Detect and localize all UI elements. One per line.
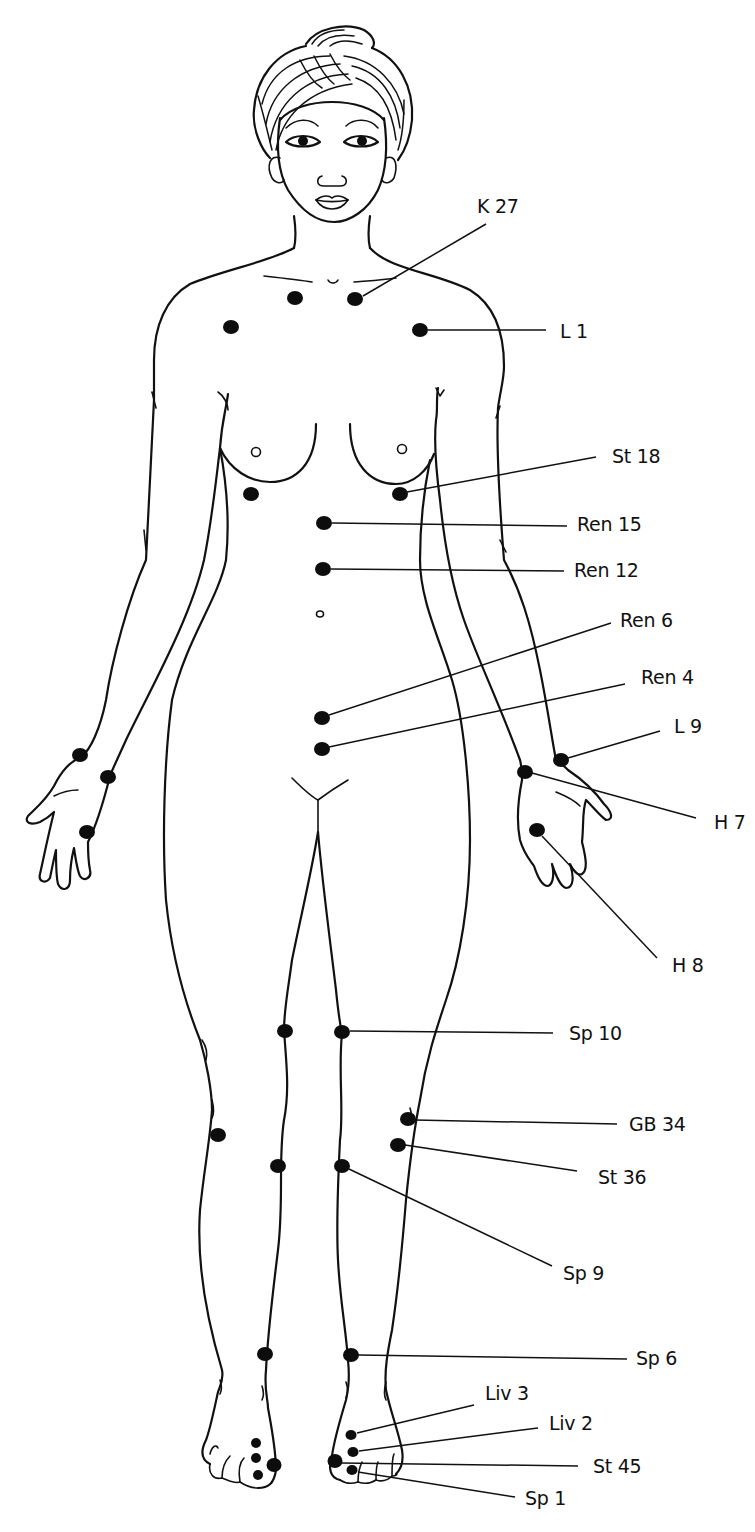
point-sp1-mirror bbox=[253, 1470, 263, 1480]
point-liv2-mirror bbox=[251, 1453, 261, 1463]
point-ren12 bbox=[315, 562, 331, 576]
right-hand-illustration bbox=[518, 760, 611, 888]
point-labels: K 27 L 1 St 18 Ren 15 Ren 12 Ren 6 Ren 4… bbox=[477, 195, 746, 1509]
leader-st36 bbox=[405, 1145, 577, 1171]
torso-illustration bbox=[82, 248, 556, 1100]
point-gb34-mirror bbox=[210, 1128, 226, 1142]
point-st18 bbox=[392, 487, 408, 501]
leader-sp9 bbox=[349, 1169, 552, 1266]
point-sp9-mirror bbox=[270, 1159, 286, 1173]
point-l9-mirror bbox=[72, 748, 88, 762]
label-st45: St 45 bbox=[593, 1455, 641, 1477]
label-h8: H 8 bbox=[672, 954, 704, 976]
point-l1 bbox=[412, 323, 428, 337]
leader-liv3 bbox=[357, 1405, 474, 1433]
point-ren15 bbox=[316, 516, 332, 530]
point-sp6 bbox=[343, 1348, 359, 1362]
point-liv3-mirror bbox=[251, 1438, 261, 1448]
point-liv3 bbox=[346, 1430, 357, 1440]
point-k27-mirror bbox=[287, 291, 303, 305]
point-st45-mirror bbox=[267, 1458, 282, 1472]
acupuncture-body-diagram: K 27 L 1 St 18 Ren 15 Ren 12 Ren 6 Ren 4… bbox=[0, 0, 755, 1532]
legs-illustration bbox=[199, 832, 420, 1488]
leader-l9 bbox=[568, 731, 660, 758]
point-sp10-mirror bbox=[277, 1024, 293, 1038]
leader-ren4 bbox=[329, 684, 625, 747]
label-k27: K 27 bbox=[477, 195, 518, 217]
leader-lines bbox=[329, 224, 696, 1497]
label-gb34: GB 34 bbox=[629, 1113, 686, 1135]
point-sp6-mirror bbox=[257, 1347, 273, 1361]
left-hand-illustration bbox=[27, 756, 110, 889]
label-ren15: Ren 15 bbox=[577, 513, 642, 535]
label-h7: H 7 bbox=[714, 811, 746, 833]
leader-h7 bbox=[532, 773, 696, 818]
point-k27 bbox=[347, 292, 363, 306]
label-l9: L 9 bbox=[674, 715, 702, 737]
leader-ren15 bbox=[332, 523, 567, 526]
label-st18: St 18 bbox=[612, 445, 660, 467]
point-st36 bbox=[390, 1138, 406, 1152]
label-l1: L 1 bbox=[560, 320, 588, 342]
leader-k27 bbox=[363, 224, 486, 296]
leader-sp6 bbox=[358, 1355, 627, 1359]
head-illustration bbox=[254, 26, 412, 248]
mirror-points bbox=[72, 291, 303, 1480]
label-ren6: Ren 6 bbox=[620, 609, 673, 631]
label-sp1: Sp 1 bbox=[525, 1487, 566, 1509]
label-sp9: Sp 9 bbox=[563, 1262, 604, 1284]
leader-liv2 bbox=[359, 1428, 538, 1451]
point-ren4 bbox=[314, 742, 330, 756]
label-st36: St 36 bbox=[598, 1166, 646, 1188]
point-gb34 bbox=[400, 1112, 416, 1126]
point-sp10 bbox=[334, 1025, 350, 1039]
point-liv2 bbox=[348, 1447, 359, 1457]
leader-h8 bbox=[542, 836, 657, 958]
point-ren6 bbox=[314, 711, 330, 725]
point-sp1 bbox=[347, 1465, 358, 1475]
point-st45 bbox=[328, 1454, 343, 1468]
label-sp10: Sp 10 bbox=[569, 1022, 622, 1044]
point-h7-mirror bbox=[100, 770, 116, 784]
point-h7 bbox=[517, 765, 533, 779]
label-ren4: Ren 4 bbox=[641, 666, 694, 688]
label-liv2: Liv 2 bbox=[549, 1412, 593, 1434]
leader-sp1 bbox=[358, 1472, 515, 1497]
leader-ren12 bbox=[331, 569, 564, 571]
point-h8 bbox=[529, 823, 545, 837]
label-sp6: Sp 6 bbox=[636, 1347, 677, 1369]
leader-gb34 bbox=[415, 1120, 617, 1124]
leader-sp10 bbox=[350, 1031, 553, 1033]
point-h8-mirror bbox=[79, 825, 95, 839]
label-ren12: Ren 12 bbox=[574, 559, 639, 581]
point-st18-mirror bbox=[243, 487, 259, 501]
point-l1-mirror bbox=[223, 320, 239, 334]
point-sp9 bbox=[334, 1159, 350, 1173]
point-l9 bbox=[553, 753, 569, 767]
label-liv3: Liv 3 bbox=[485, 1382, 529, 1404]
